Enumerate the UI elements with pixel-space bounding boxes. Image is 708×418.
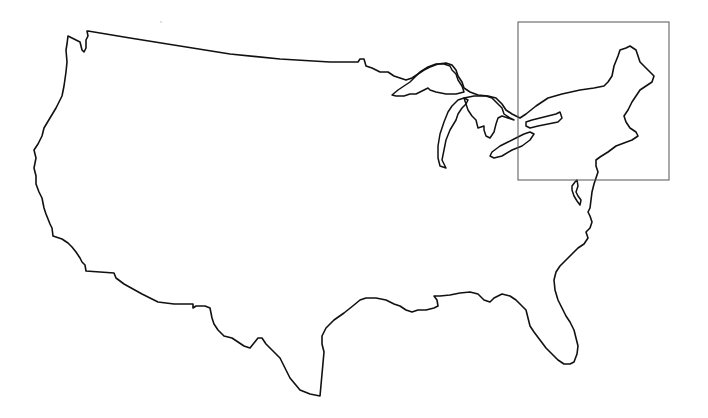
lake-erie-shoreline [490, 132, 534, 158]
scan-speck [160, 21, 162, 23]
map-canvas [0, 0, 708, 418]
lake-huron-shoreline [464, 96, 514, 138]
northeast-inset-frame [518, 22, 669, 180]
us-outline-map [0, 0, 708, 418]
chesapeake-bay-shoreline [572, 180, 581, 205]
contiguous-us-border [34, 31, 654, 396]
lake-michigan-shoreline [438, 98, 468, 168]
lake-ontario-shoreline [526, 112, 562, 128]
